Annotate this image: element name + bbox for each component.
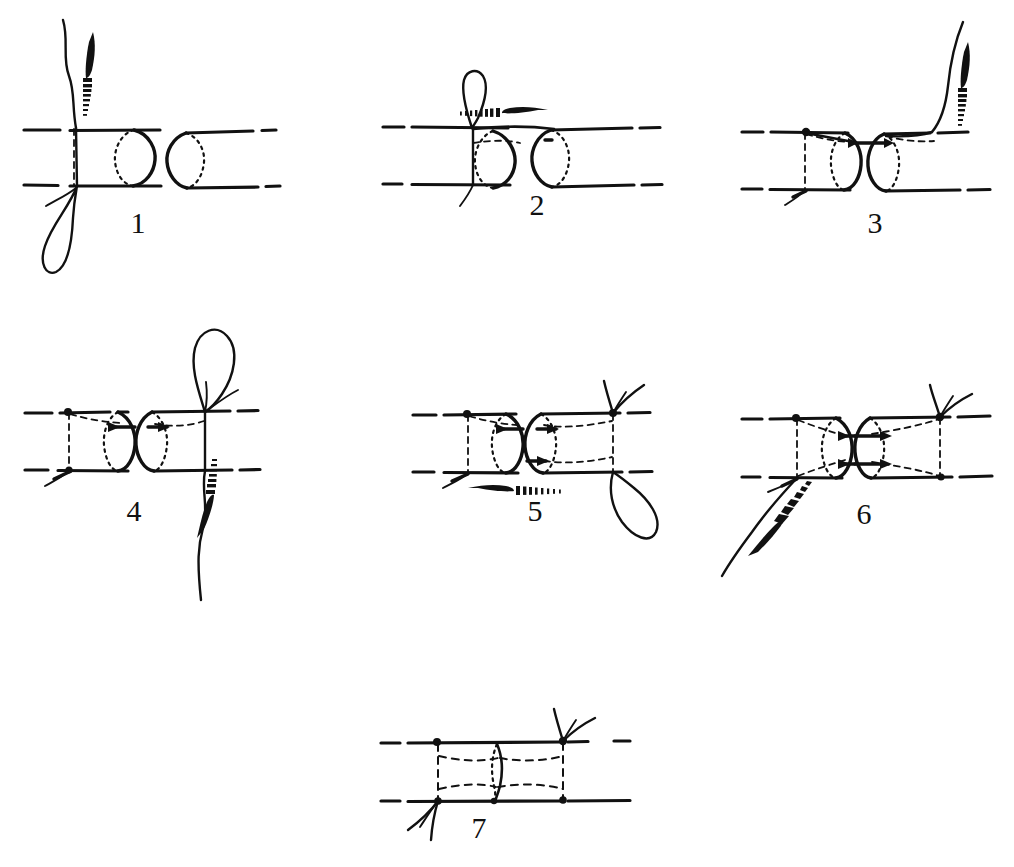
panel-label-3: 3 xyxy=(868,206,883,239)
curved-surgical-needle xyxy=(460,107,548,117)
suture-knot xyxy=(785,128,810,205)
tube-right xyxy=(136,411,260,472)
suture-knot-bottom-right xyxy=(937,473,944,480)
tube-right xyxy=(525,413,652,474)
panel-label-6: 6 xyxy=(857,497,872,530)
suture-knot-left xyxy=(443,410,471,488)
suture-thread xyxy=(611,472,658,538)
panel-label-2: 2 xyxy=(530,188,545,221)
suture-thread xyxy=(722,478,797,576)
panel-7: 7 xyxy=(381,709,630,844)
panel-2: 2 xyxy=(383,71,662,221)
tube-joined xyxy=(381,741,630,802)
suture-thread xyxy=(43,20,77,273)
tube-left xyxy=(25,412,135,471)
suture-knot-top-left xyxy=(433,738,441,746)
tube-left xyxy=(24,129,161,186)
tube-right xyxy=(167,130,280,188)
figure-canvas: 1 xyxy=(0,0,1014,867)
panel-1: 1 xyxy=(24,20,280,273)
curved-surgical-needle xyxy=(748,481,812,556)
panel-6: 6 xyxy=(722,385,992,576)
panel-label-5: 5 xyxy=(528,494,543,527)
panel-4: 4 xyxy=(25,330,260,600)
tube-left xyxy=(413,414,523,473)
tube-left xyxy=(383,127,520,188)
tube-right xyxy=(855,416,992,478)
panel-label-7: 7 xyxy=(472,811,487,844)
tube-right xyxy=(532,128,662,188)
suture-knot-bottom-right xyxy=(559,796,567,804)
curved-surgical-needle xyxy=(468,485,561,495)
curved-surgical-needle xyxy=(83,32,95,116)
tube-left xyxy=(742,418,852,478)
suture-knot-bottom-left xyxy=(408,797,442,840)
panel-label-4: 4 xyxy=(127,494,142,527)
panel-5: 5 xyxy=(413,381,657,538)
suture-knot-top-right xyxy=(554,709,595,745)
suture-knot-top-left xyxy=(792,414,800,422)
panel-3: 3 xyxy=(742,22,990,239)
suture-knot-bottom-mid xyxy=(491,798,497,804)
figure-root: 1 xyxy=(0,0,1014,867)
panel-label-1: 1 xyxy=(131,206,146,239)
curved-surgical-needle xyxy=(958,42,970,126)
